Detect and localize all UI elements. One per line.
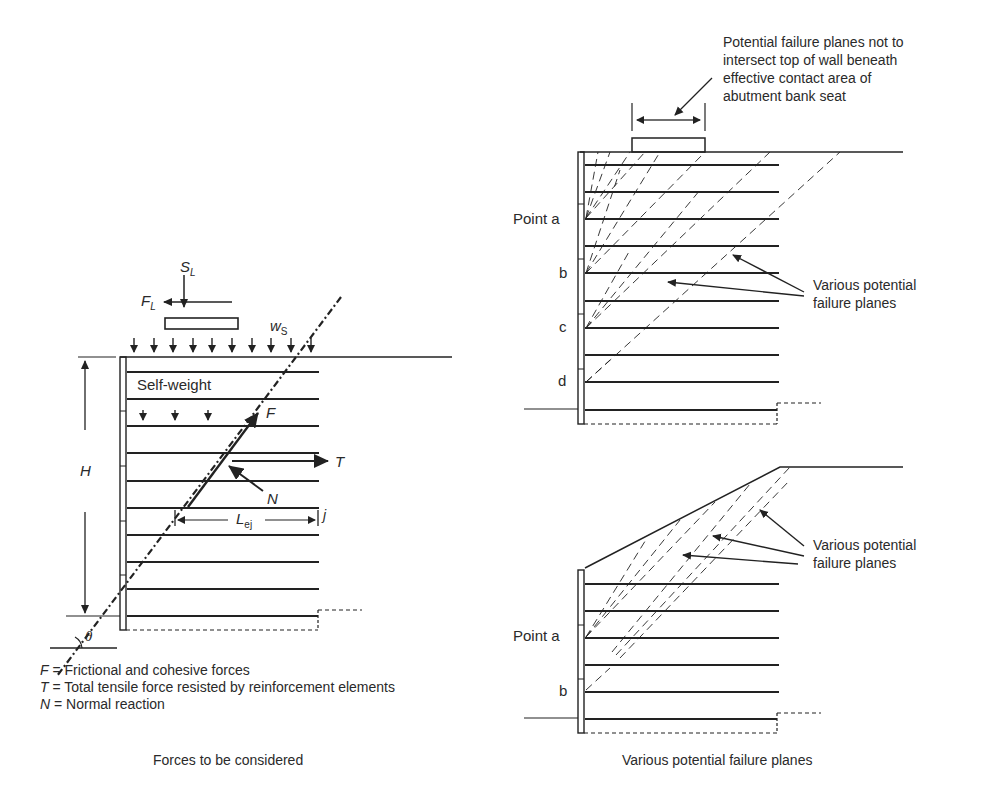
right-bottom-panel — [524, 467, 903, 733]
failure-planes — [586, 467, 790, 690]
bank-seat-note: Potential failure planes not to intersec… — [723, 33, 904, 105]
note-pointer-arrow-icon — [675, 78, 712, 115]
failure-plane-line — [57, 297, 341, 676]
legend: F = Frictional and cohesive forces T = T… — [40, 662, 395, 713]
Lej-label: Lej — [236, 510, 252, 529]
reinforcement-strips — [585, 584, 779, 719]
point-b-label: b — [559, 264, 567, 281]
callout-arrow-icon — [683, 555, 798, 564]
reinforcement-strips — [127, 372, 319, 616]
point-b-label: b — [559, 682, 567, 699]
callout-arrow-icon — [713, 536, 804, 556]
right-top-panel — [524, 78, 903, 424]
surcharge-arrows-icon — [134, 338, 311, 352]
N-arrow-icon — [229, 466, 263, 491]
left-caption: Forces to be considered — [153, 752, 303, 768]
right-caption: Various potential failure planes — [622, 752, 812, 768]
SL-label: SL — [180, 258, 196, 277]
callout-arrow-icon — [760, 510, 804, 546]
self-weight-label: Self-weight — [137, 376, 211, 393]
N-label: N — [267, 490, 278, 507]
legend-item-T: T = Total tensile force resisted by rein… — [40, 679, 395, 696]
F-label: F — [266, 404, 275, 421]
wall-facing — [578, 152, 584, 424]
point-a-label: Point a — [513, 627, 560, 644]
j-label: j — [323, 507, 326, 524]
failure-planes-callout: Various potential failure planes — [813, 536, 916, 572]
failure-planes — [586, 152, 840, 382]
point-d-label: d — [558, 372, 566, 389]
bank-seat-box — [632, 138, 705, 152]
self-weight-arrows-icon — [143, 410, 208, 420]
reinforcement-strips — [585, 165, 779, 410]
legend-item-F: F = Frictional and cohesive forces — [40, 662, 395, 679]
ws-label: wS — [270, 317, 288, 336]
T-label: T — [335, 453, 344, 470]
point-a-label: Point a — [513, 210, 560, 227]
footing-box — [165, 318, 238, 329]
failure-planes-callout: Various potential failure planes — [813, 276, 916, 312]
FL-label: FL — [141, 292, 156, 311]
theta-label: θ — [85, 628, 92, 645]
callout-arrow-icon — [668, 282, 804, 296]
wall-facing — [578, 570, 584, 733]
legend-item-N: N = Normal reaction — [40, 696, 395, 713]
H-label: H — [80, 462, 91, 479]
point-c-label: c — [559, 318, 567, 335]
left-panel-forces — [50, 275, 452, 676]
